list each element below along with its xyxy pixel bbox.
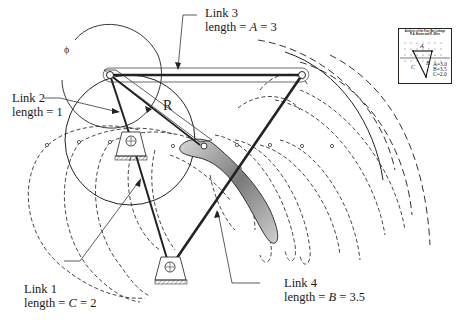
link1-length-prefix: length =	[24, 296, 69, 310]
coupler-point	[201, 143, 207, 149]
inset-label-a: A	[420, 43, 424, 49]
link4-title: Link 4	[284, 276, 365, 290]
link4-label: Link 4 length = B = 3.5	[284, 276, 365, 304]
inset-thumbnail: Analysis of the Four Bar Linkage R.A. Br…	[398, 28, 452, 84]
link1-length-value: = 2	[77, 296, 97, 310]
link3-title: Link 3	[205, 6, 277, 20]
inset-label-c: C	[411, 64, 415, 70]
joint-pin-link3-link4	[299, 72, 306, 79]
inset-values: A=3.0 B=3.5 C=2.0	[433, 62, 447, 78]
link3-length: length = A = 3	[205, 20, 277, 34]
angle-phi-label: ϕ	[64, 44, 69, 55]
link4-length-prefix: length =	[284, 290, 329, 304]
joint-pin-link2-link3	[107, 72, 114, 79]
link1-length: length = C = 2	[24, 296, 96, 310]
coupler-curve-shaded	[180, 139, 278, 243]
link2-label: Link 2 length = 1	[12, 91, 63, 119]
link1-label: Link 1 length = C = 2	[24, 282, 96, 310]
inset-value-c: C=2.0	[433, 72, 447, 77]
link3-length-value: = 3	[257, 20, 277, 34]
link1-var: C	[69, 296, 77, 310]
link4-length: length = B = 3.5	[284, 290, 365, 304]
ground-pivot-lower	[155, 257, 187, 284]
link2-title: Link 2	[12, 91, 63, 105]
inset-label-b: B	[426, 60, 430, 66]
link3-length-prefix: length =	[205, 20, 250, 34]
ground-pivot-upper	[115, 132, 147, 160]
link2-length: length = 1	[12, 105, 63, 119]
radius-label: R	[163, 98, 172, 114]
link3-label: Link 3 length = A = 3	[205, 6, 277, 34]
link1-title: Link 1	[24, 282, 96, 296]
solid-arc-right	[285, 52, 383, 180]
link4-bar	[170, 75, 302, 268]
link4-length-value: = 3.5	[336, 290, 365, 304]
